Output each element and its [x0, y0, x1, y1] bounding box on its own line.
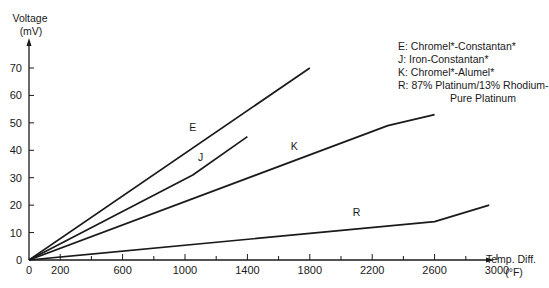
series-label-k: K	[291, 140, 298, 152]
y-tick-label: 30	[10, 172, 22, 184]
legend-item-k: K: Chromel*-Alumel*	[398, 66, 549, 79]
x-tick-label: 200	[51, 264, 69, 276]
legend-item-e: E: Chromel*-Constantan*	[398, 40, 549, 53]
x-tick-label: 1000	[173, 264, 197, 276]
x-tick-label: 2600	[422, 264, 446, 276]
series-line-j	[29, 137, 247, 260]
x-axis-label-line1: Temp. Diff.	[486, 253, 536, 265]
y-tick-label: 20	[10, 199, 22, 211]
y-tick-label: 10	[10, 227, 22, 239]
x-tick-label: 1400	[235, 264, 259, 276]
y-tick-label: 70	[10, 62, 22, 74]
legend-item-j: J: Iron-Constantan*	[398, 53, 549, 66]
legend-item-r: R: 87% Platinum/13% Rhodium-	[398, 79, 549, 92]
y-tick-label: 50	[10, 117, 22, 129]
series-line-e	[29, 68, 310, 260]
series-label-e: E	[189, 121, 196, 133]
y-axis-label-line2: (mV)	[20, 25, 43, 37]
x-tick-label: 2200	[360, 264, 384, 276]
y-tick-label: 0	[16, 254, 22, 266]
y-axis-arrow-icon	[27, 38, 32, 46]
legend: E: Chromel*-Constantan* J: Iron-Constant…	[398, 40, 549, 105]
series-label-j: J	[198, 151, 203, 163]
x-tick-label: 600	[113, 264, 131, 276]
legend-item-r-continuation: Pure Platinum	[398, 92, 549, 105]
x-tick-label: 1800	[298, 264, 322, 276]
series-label-r: R	[353, 206, 361, 218]
x-tick-label: 0	[26, 264, 32, 276]
y-tick-label: 60	[10, 89, 22, 101]
y-tick-label: 40	[10, 144, 22, 156]
x-axis-label-line2: (°F)	[505, 266, 523, 278]
series-line-k	[29, 115, 435, 260]
y-axis-label-line1: Voltage	[12, 12, 47, 24]
